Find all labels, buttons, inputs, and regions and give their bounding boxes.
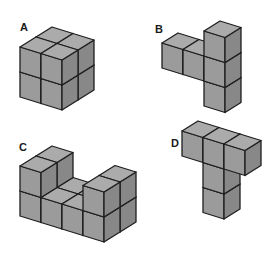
cube-figures-canvas [0,0,274,256]
figure-a-label: A [20,22,28,33]
figure-c-label: C [19,142,27,153]
figure-d-label: D [171,138,179,149]
figure-d [182,121,261,219]
figure-c [20,146,136,242]
cube [20,156,57,198]
figure-a [20,27,94,110]
cube [204,21,241,63]
figure-b [162,21,241,113]
cube [224,134,261,176]
cube [41,44,78,86]
cube [83,176,120,218]
figure-b-label: B [155,24,163,35]
